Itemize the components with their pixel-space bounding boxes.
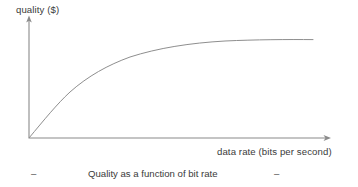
figure-container: quality ($) data rate (bits per second) …: [0, 0, 358, 187]
figure-caption: Quality as a function of bit rate: [88, 168, 218, 179]
plot-area: [0, 0, 358, 187]
y-axis-label: quality ($): [16, 4, 59, 15]
figure-caption-row: – Quality as a function of bit rate –: [0, 168, 358, 182]
x-axis-label: data rate (bits per second): [217, 146, 332, 157]
caption-dash-left: –: [31, 168, 36, 179]
caption-dash-right: –: [274, 168, 279, 179]
quality-curve: [29, 40, 313, 138]
